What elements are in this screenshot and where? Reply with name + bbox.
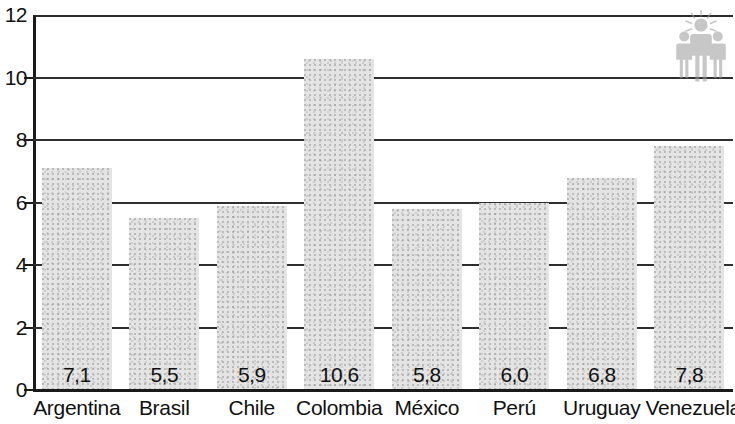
bar (567, 178, 637, 391)
x-axis-category-label: Brasil (121, 396, 209, 420)
bar-value-label: 5,8 (392, 364, 462, 386)
x-axis-line (33, 389, 733, 392)
x-axis-category-label: Chile (208, 396, 296, 420)
bar-value-label: 6,8 (567, 364, 637, 386)
bar-value-label: 6,0 (479, 364, 549, 386)
y-axis-tick-label: 6 (0, 192, 27, 213)
y-axis-tick-label: 0 (0, 379, 27, 400)
y-axis-tick-label: 12 (0, 4, 27, 25)
bar-value-label: 10,6 (304, 364, 374, 386)
bar-value-label: 7,8 (654, 364, 724, 386)
people-group-icon (672, 10, 730, 88)
x-axis-category-label: Colombia (296, 396, 384, 420)
y-axis-tick-label: 4 (0, 254, 27, 275)
x-axis-category-label: Argentina (33, 396, 121, 420)
x-axis-category-label: Uruguay (558, 396, 646, 420)
x-axis-category-label: Venezuela (646, 396, 734, 420)
x-axis-category-label: México (383, 396, 471, 420)
x-axis-category-label: Perú (471, 396, 559, 420)
bars-layer: 7,15,55,910,65,86,06,87,8 (33, 15, 733, 390)
bar (654, 146, 724, 390)
bar (304, 59, 374, 390)
y-axis-tick-label: 2 (0, 317, 27, 338)
y-axis-tick-label: 10 (0, 67, 27, 88)
bar-chart: 024681012 7,15,55,910,65,86,06,87,8 Arge… (0, 0, 735, 424)
bar-value-label: 7,1 (42, 364, 112, 386)
bar-value-label: 5,9 (217, 364, 287, 386)
bar-value-label: 5,5 (129, 364, 199, 386)
bar (42, 168, 112, 390)
bar (479, 203, 549, 391)
y-axis-tick-label: 8 (0, 129, 27, 150)
